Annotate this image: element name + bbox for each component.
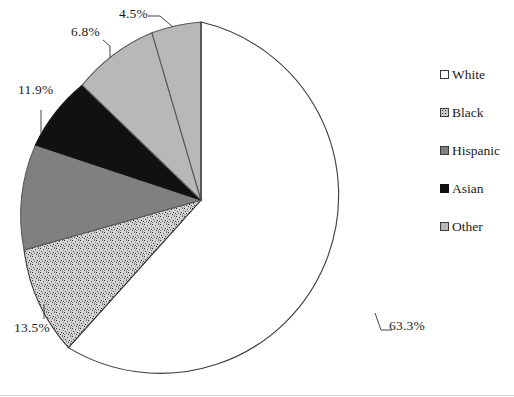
black-swatch	[440, 184, 449, 193]
legend-item-hispanic[interactable]: Hispanic	[440, 142, 514, 158]
lightgray-swatch	[440, 222, 449, 231]
pie-chart-svg	[0, 0, 514, 397]
legend-item-white[interactable]: White	[440, 66, 514, 82]
legend-label-asian: Asian	[452, 182, 484, 195]
callout-label-asian: 6.8%	[71, 24, 100, 40]
leader-line-other	[148, 16, 173, 27]
legend-item-other[interactable]: Other	[440, 218, 514, 234]
white-swatch	[440, 70, 449, 79]
pie-chart-figure: 63.3% 13.5% 11.9% 6.8% 4.5% White Black …	[0, 0, 514, 397]
callout-label-black: 13.5%	[14, 320, 50, 336]
callout-label-white: 63.3%	[389, 318, 425, 334]
legend-label-hispanic: Hispanic	[452, 144, 500, 157]
legend-label-white: White	[452, 68, 485, 81]
speckle-swatch	[440, 108, 449, 117]
legend-item-black[interactable]: Black	[440, 104, 514, 120]
chart-legend: White Black Hispanic Asian Other	[440, 66, 514, 256]
legend-label-other: Other	[452, 220, 483, 233]
legend-label-black: Black	[452, 106, 484, 119]
legend-item-asian[interactable]: Asian	[440, 180, 514, 196]
gray-swatch	[440, 146, 449, 155]
callout-label-other: 4.5%	[119, 6, 148, 22]
leader-line-asian	[103, 40, 110, 58]
callout-label-hispanic: 11.9%	[18, 82, 53, 98]
